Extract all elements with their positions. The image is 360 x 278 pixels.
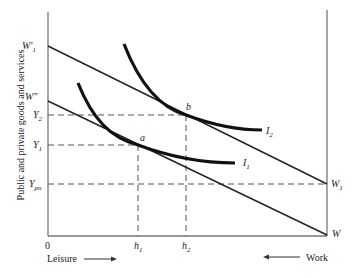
i1-label: I1 — [242, 157, 250, 171]
h1-label: h1 — [134, 240, 143, 254]
labor-leisure-diagram: Public and private goods and services W′… — [0, 0, 360, 278]
y2-label: Y2 — [33, 109, 43, 123]
budget-line-w-double-prime — [48, 101, 327, 235]
origin-label: 0 — [45, 240, 50, 251]
w-double-prime-label: W″ — [25, 91, 38, 102]
work-arrow-icon — [263, 255, 300, 260]
dashed-guides — [48, 115, 327, 236]
leisure-label: Leisure — [47, 253, 78, 264]
indifference-curve-i2 — [124, 44, 262, 130]
leisure-arrow-icon — [84, 257, 117, 262]
ypu-label: Ypu — [29, 178, 42, 192]
y1-label: Y1 — [33, 139, 42, 153]
y-axis-label: Public and private goods and services — [15, 49, 26, 200]
i2-label: I2 — [265, 125, 273, 139]
w-label: W — [332, 228, 342, 239]
point-b-label: b — [186, 101, 191, 112]
h2-label: h2 — [182, 240, 191, 254]
work-label: Work — [306, 252, 328, 263]
w1-label: W1 — [331, 178, 343, 192]
point-a-label: a — [140, 132, 145, 143]
